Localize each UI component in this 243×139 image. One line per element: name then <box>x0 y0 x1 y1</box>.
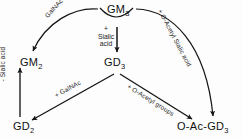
center-label-acid: acid <box>96 40 116 48</box>
node-gd3: GD3 <box>104 56 126 71</box>
node-o-ac-gd3-sub: 3 <box>224 126 228 135</box>
node-gm3-label: GM <box>107 3 125 15</box>
node-gd2-label: GD <box>13 120 30 132</box>
edge-label-minus-sialic-acid: - Sialic acid <box>0 47 6 82</box>
node-gm3-sub: 3 <box>125 9 129 18</box>
node-gd3-label: GD <box>104 56 121 68</box>
center-label-plus-sialic-acid: + Sialic acid <box>96 25 116 48</box>
node-gd2: GD2 <box>13 120 35 135</box>
node-gd2-sub: 2 <box>30 126 34 135</box>
node-gm2-label: GM <box>20 56 38 68</box>
node-o-ac-gd3: O-Ac-GD3 <box>177 120 229 135</box>
arrow-gd3-to-o-ac-gd3 <box>120 74 192 119</box>
center-label-plus: + <box>96 25 116 33</box>
node-o-ac-gd3-label: O-Ac-GD <box>177 120 224 132</box>
node-gm2-sub: 2 <box>38 62 42 71</box>
pathway-diagram: GM3 GM2 GD3 GD2 O-Ac-GD3 GalNAc + O-Acet… <box>0 0 243 139</box>
center-label-sialic: Sialic <box>96 33 116 41</box>
node-gd3-sub: 3 <box>121 62 125 71</box>
arrow-gm3-to-gm2 <box>33 9 98 51</box>
node-gm2: GM2 <box>20 56 43 71</box>
node-gm3: GM3 <box>107 3 130 18</box>
